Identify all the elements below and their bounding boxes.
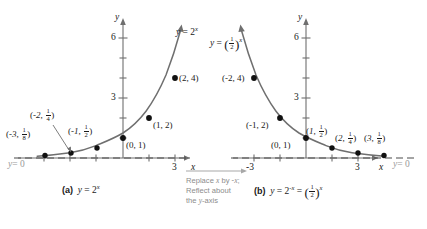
note-line3-pre: the <box>186 196 199 205</box>
caption-tag: (a) <box>62 185 73 195</box>
panel-b-graph: y x 6 3 -3 3 y= 0 y = (12)x (-2, 4) (-1,… <box>213 0 427 229</box>
data-point <box>42 153 47 158</box>
point-y-num: 1 <box>319 124 324 131</box>
curve-label-frac-num: 1 <box>229 36 234 43</box>
note-line1-mid: by <box>219 176 231 185</box>
y-tick-6: 6 <box>111 33 116 43</box>
point-y-den: 4 <box>46 115 51 123</box>
point-label-2: (2, 14) <box>335 131 356 146</box>
point-label-1: (1, 2) <box>153 121 173 130</box>
note-line1-pre: Replace <box>186 176 216 185</box>
y-tick-6: 6 <box>294 33 299 43</box>
leader-line <box>53 125 69 150</box>
caption-exponent: x <box>97 183 100 190</box>
point-label-0: (0, 1) <box>126 141 146 150</box>
note-line1-post: ; <box>238 176 240 185</box>
point-y-num: 1 <box>348 131 353 138</box>
asymptote-label-eq: = 0 <box>397 159 409 169</box>
data-point <box>146 115 152 121</box>
y-tick-3: 3 <box>111 93 116 103</box>
point-x: -3 <box>9 129 17 139</box>
data-point <box>94 145 99 150</box>
transform-note: Replace x by -x; Reflect about the y-axi… <box>186 176 240 206</box>
exponential-curve-a <box>37 31 180 157</box>
data-point <box>277 115 283 121</box>
point-y-num: 1 <box>22 127 27 134</box>
curve-label-exponent: x <box>195 25 198 32</box>
asymptote-label: y= 0 <box>393 160 410 170</box>
curve-guide <box>37 138 123 156</box>
x-axis-label: x <box>191 163 195 173</box>
asymptote-label-eq: = 0 <box>12 159 24 169</box>
point-label-neg2: (-2, 14) <box>30 108 54 123</box>
y-axis-label: y <box>115 13 119 23</box>
point-x: -2 <box>33 110 41 120</box>
caption-a: (a) y = 2x <box>62 184 100 196</box>
curve-label-eq: = <box>217 38 222 48</box>
x-tick-3: 3 <box>355 163 360 173</box>
caption-eq: = <box>84 185 89 195</box>
y-tick-3: 3 <box>294 93 299 103</box>
asymptote-label: y= 0 <box>8 160 25 170</box>
transform-note-line-1: Replace x by -x; <box>186 176 240 186</box>
transform-note-line-2: Reflect about <box>186 186 240 196</box>
transform-note-line-3: the y-axis <box>186 196 240 206</box>
point-y-den: 8 <box>377 138 382 146</box>
curve-label-a: y = 2x <box>176 26 198 38</box>
y-axis-label: y <box>298 13 302 23</box>
point-y-num: 1 <box>46 108 51 115</box>
x-axis-label: x <box>379 163 383 173</box>
caption-lhs: y <box>78 185 82 195</box>
exponential-functions-figure: y x 6 3 3 y= 0 y = 2x (-3, 18) (-2, 14) … <box>0 0 427 229</box>
point-label-neg1: (-1, 2) <box>246 121 269 130</box>
point-label-3: (3, 18) <box>364 131 385 146</box>
caption-tag: (b) <box>254 186 266 196</box>
data-point <box>329 145 334 150</box>
caption-frac-num: 1 <box>309 184 314 191</box>
point-label-2: (2, 4) <box>179 74 199 83</box>
data-point <box>381 153 386 158</box>
caption-exponent-1: -x <box>289 184 294 191</box>
x-tick-neg3: -3 <box>246 163 254 173</box>
point-y-num: 1 <box>84 124 89 131</box>
data-point <box>355 150 360 155</box>
curve-label-exponent: x <box>239 36 242 43</box>
caption-exponent-2: x <box>320 184 323 191</box>
point-y-num: 1 <box>377 131 382 138</box>
point-label-neg3: (-3, 18) <box>6 127 30 142</box>
data-point <box>68 150 73 155</box>
curve-label-eq: = <box>183 27 188 37</box>
data-point <box>251 75 257 81</box>
curve-label-b: y = (12)x <box>210 36 242 51</box>
point-label-1: (1, 12) <box>306 124 327 139</box>
caption-eq-1: = <box>277 186 282 196</box>
y-axis-arrowhead <box>303 18 309 25</box>
caption-b: (b) y = 2-x = (12)x <box>254 184 322 199</box>
x-tick-3: 3 <box>172 163 177 173</box>
y-axis-arrowhead <box>120 18 126 25</box>
point-x: -1 <box>71 126 79 136</box>
data-point <box>172 75 178 81</box>
point-y-den: 8 <box>22 134 27 142</box>
caption-lhs: y <box>270 186 274 196</box>
caption-frac-den: 2 <box>309 191 314 199</box>
panel-a-graph: y x 6 3 3 y= 0 y = 2x (-3, 18) (-2, 14) … <box>0 0 214 229</box>
point-label-neg2: (-2, 4) <box>222 74 245 83</box>
point-y-den: 2 <box>84 131 89 139</box>
curve-label-frac-den: 2 <box>229 43 234 51</box>
curve-b-arrowhead <box>238 25 244 33</box>
point-y-den: 2 <box>319 131 324 139</box>
caption-eq-2: = <box>297 186 302 196</box>
point-label-0: (0, 1) <box>271 141 291 150</box>
curve-label-lhs: y <box>210 38 214 48</box>
point-label-neg1: (-1, 12) <box>68 124 92 139</box>
curve-label-lhs: y <box>176 27 180 37</box>
point-y-den: 4 <box>348 138 353 146</box>
note-line3-post: -axis <box>202 196 218 205</box>
